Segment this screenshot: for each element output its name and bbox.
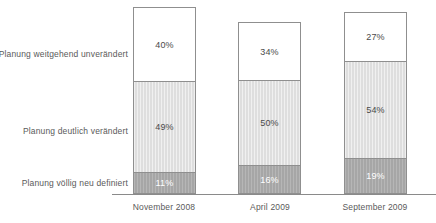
bar-segment-value: 49% [155,122,174,132]
bar-segment-value: 27% [366,32,385,42]
bar-segment-unveraendert[interactable]: 40% [133,7,196,82]
plot-area: 40% 49% 11% 34% 50% 16% 27% [0,0,436,223]
bar-segment-value: 11% [156,178,174,188]
bar-segment-unveraendert[interactable]: 27% [344,12,407,62]
x-axis-tick-september-2009: September 2009 [315,202,435,212]
bar-segment-unveraendert[interactable]: 34% [238,22,301,81]
bar-segment-deutlich-veraendert[interactable]: 50% [238,81,301,166]
stacked-bar-chart: Planung weitgehend unverändert Planung d… [0,0,436,223]
x-axis-tick-november-2008: November 2008 [104,202,224,212]
x-axis-tick-april-2009: April 2009 [210,202,330,212]
x-axis-line [112,194,436,195]
bar-segment-deutlich-veraendert[interactable]: 49% [133,82,196,173]
bar-segment-neu-definiert[interactable]: 19% [344,159,407,194]
bar-segment-value: 54% [366,105,385,115]
bar-segment-value: 16% [260,175,279,185]
bar-november-2008[interactable]: 40% 49% 11% [133,7,196,194]
bar-segment-neu-definiert[interactable]: 16% [238,166,301,194]
bar-segment-deutlich-veraendert[interactable]: 54% [344,62,407,159]
bar-segment-value: 40% [155,40,174,50]
bar-segment-value: 34% [260,47,279,57]
bar-segment-value: 19% [366,171,385,181]
bar-september-2009[interactable]: 27% 54% 19% [344,12,407,194]
bar-segment-value: 50% [260,118,279,128]
bar-segment-neu-definiert[interactable]: 11% [133,173,196,194]
bar-april-2009[interactable]: 34% 50% 16% [238,22,301,194]
